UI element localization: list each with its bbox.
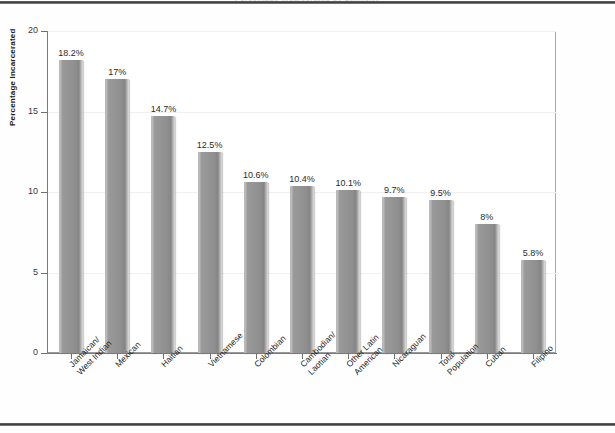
y-axis-tick: 15 <box>41 112 47 113</box>
bar-value-label: 5.8% <box>506 248 560 258</box>
bar[interactable] <box>105 79 129 353</box>
y-tick-label: 20 <box>28 25 38 35</box>
y-axis-tick: 20 <box>41 31 47 32</box>
bar[interactable] <box>475 224 499 353</box>
y-tick-label: 0 <box>33 347 38 357</box>
scanned-page: Percentage Incarcerated by Ethnicity 051… <box>0 0 615 433</box>
bar-group[interactable]: 8% <box>464 31 510 353</box>
bar-group[interactable]: 14.7% <box>140 31 186 353</box>
bar-value-label: 9.5% <box>414 188 468 198</box>
bar[interactable] <box>290 186 314 353</box>
y-tick-label: 5 <box>33 267 38 277</box>
document-title: Percentage Incarcerated by Ethnicity <box>0 0 615 1</box>
bar[interactable] <box>336 190 360 353</box>
y-axis-tick: 0 <box>41 353 47 354</box>
y-tick-label: 15 <box>28 106 38 116</box>
page-rule-bottom <box>0 423 615 426</box>
bars-series: 18.2%17%14.7%12.5%10.6%10.4%10.1%9.7%9.5… <box>48 31 556 353</box>
y-axis-title: Percentage Incarcerated <box>8 28 17 126</box>
y-axis-tick: 10 <box>41 192 47 193</box>
bar-group[interactable]: 12.5% <box>187 31 233 353</box>
bar-group[interactable]: 10.6% <box>233 31 279 353</box>
bar[interactable] <box>151 116 175 353</box>
bar-group[interactable]: 10.1% <box>325 31 371 353</box>
bar-group[interactable]: 10.4% <box>279 31 325 353</box>
bar[interactable] <box>198 152 222 353</box>
bar[interactable] <box>59 60 83 353</box>
bar[interactable] <box>429 200 453 353</box>
y-tick-label: 10 <box>28 186 38 196</box>
y-tick-mark <box>41 112 47 113</box>
bar-group[interactable]: 18.2% <box>48 31 94 353</box>
bar-value-label: 12.5% <box>183 140 237 150</box>
y-tick-mark <box>41 353 47 354</box>
bar-chart: 05101520 Percentage Incarcerated 18.2%17… <box>6 8 606 416</box>
bar-group[interactable]: 9.5% <box>417 31 463 353</box>
page-rule-top <box>0 1 615 4</box>
y-tick-mark <box>41 31 47 32</box>
bar-value-label: 8% <box>460 212 514 222</box>
bar-group[interactable]: 9.7% <box>371 31 417 353</box>
bar-value-label: 18.2% <box>44 48 98 58</box>
y-tick-mark <box>41 273 47 274</box>
bar[interactable] <box>521 260 545 353</box>
y-tick-mark <box>41 192 47 193</box>
bar-group[interactable]: 5.8% <box>510 31 556 353</box>
y-axis-tick: 5 <box>41 273 47 274</box>
bar-value-label: 17% <box>90 67 144 77</box>
bar[interactable] <box>244 182 268 353</box>
bar-value-label: 14.7% <box>136 104 190 114</box>
bar-group[interactable]: 17% <box>94 31 140 353</box>
bar[interactable] <box>382 197 406 353</box>
